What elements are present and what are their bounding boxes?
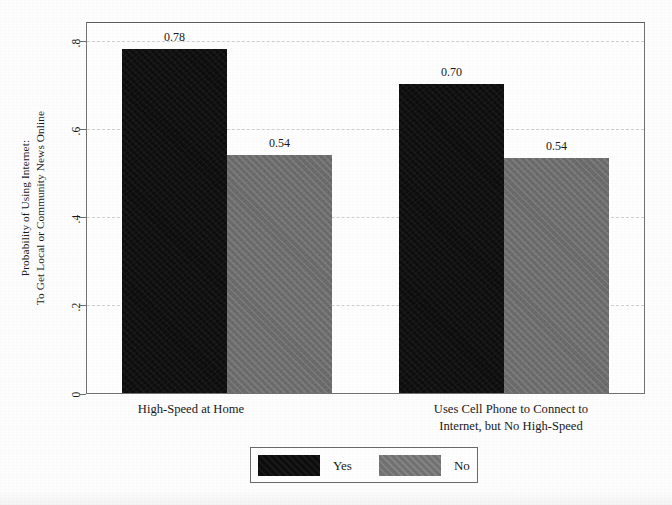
legend-item-no: No xyxy=(379,454,474,476)
x-axis-group-label-2-line-2: Internet, but No High-Speed xyxy=(386,418,636,435)
chart-figure: Probability of Using Internet: To Get Lo… xyxy=(0,0,672,505)
legend-label-yes: Yes xyxy=(320,459,356,472)
bar-value-label-group2-no: 0.54 xyxy=(504,140,609,152)
legend-swatch-yes xyxy=(258,455,320,476)
y-axis-tick-mark xyxy=(79,129,86,130)
legend-item-yes: Yes xyxy=(258,454,356,476)
y-axis-title-line-1: Probability of Using Internet: xyxy=(18,111,33,305)
y-axis-title-line-2: To Get Local or Community News Online xyxy=(33,111,48,305)
y-axis-title: Probability of Using Internet: To Get Lo… xyxy=(14,22,52,394)
legend-swatch-no xyxy=(379,455,441,476)
y-axis-tick-mark xyxy=(79,41,86,42)
x-axis-group-label-1-line-1: High-Speed at Home xyxy=(106,401,276,418)
legend: Yes No xyxy=(250,447,478,483)
bar-group2-no xyxy=(504,158,609,393)
bar-group2-yes xyxy=(399,84,504,393)
x-axis-group-label-2-line-1: Uses Cell Phone to Connect to xyxy=(386,401,636,418)
y-axis-tick-mark xyxy=(79,217,86,218)
y-axis-tick-mark xyxy=(79,305,86,306)
scan-smudge xyxy=(0,489,672,505)
legend-label-no: No xyxy=(441,459,474,472)
x-axis-group-label-1: High-Speed at Home xyxy=(106,401,276,418)
bar-group1-no xyxy=(227,155,332,393)
bar-value-label-group2-yes: 0.70 xyxy=(399,66,504,78)
bar-value-label-group1-yes: 0.78 xyxy=(122,31,227,43)
y-axis-tick-mark xyxy=(79,394,86,395)
plot-area: 0.78 0.54 0.70 0.54 xyxy=(86,22,645,394)
x-axis-group-label-2: Uses Cell Phone to Connect to Internet, … xyxy=(386,401,636,435)
bar-group1-yes xyxy=(122,49,227,393)
bar-value-label-group1-no: 0.54 xyxy=(227,137,332,149)
